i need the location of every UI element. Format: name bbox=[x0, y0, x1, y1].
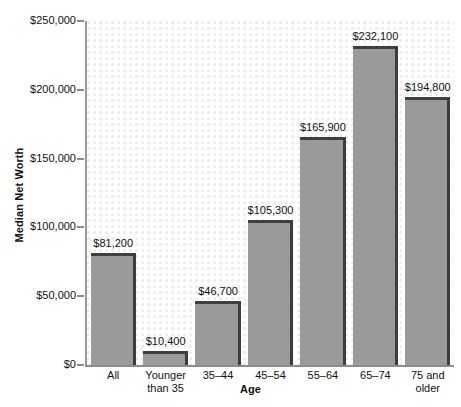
bar-value-label: $10,400 bbox=[146, 336, 186, 347]
bar-value-label: $232,100 bbox=[352, 31, 398, 42]
bar[interactable] bbox=[143, 351, 188, 365]
bar[interactable] bbox=[248, 220, 293, 365]
bar-group: $232,100 bbox=[353, 21, 398, 365]
bar-chart: Median Net Worth $0$50,000$100,000$150,0… bbox=[0, 0, 461, 407]
bar[interactable] bbox=[91, 253, 136, 365]
y-axis-tick-label: $150,000 bbox=[14, 153, 76, 164]
y-axis-tick-mark bbox=[77, 226, 84, 228]
bars-layer: $81,200$10,400$46,700$105,300$165,900$23… bbox=[87, 21, 454, 365]
x-axis-tick-label: 65–74 bbox=[349, 369, 401, 382]
y-axis-tick-label: $50,000 bbox=[14, 290, 76, 301]
bar-value-label: $165,900 bbox=[300, 122, 346, 133]
bar-group: $105,300 bbox=[248, 21, 293, 365]
x-axis-tick-label-line: 65–74 bbox=[349, 369, 401, 382]
x-axis-title-label: Age bbox=[240, 383, 261, 395]
x-axis-tick-label-line: 45–54 bbox=[244, 369, 296, 382]
y-axis-tick-label: $200,000 bbox=[14, 84, 76, 95]
bar-group: $10,400 bbox=[143, 21, 188, 365]
y-axis-tick-mark bbox=[77, 158, 84, 160]
bar-value-label: $46,700 bbox=[198, 286, 238, 297]
bar-value-label: $81,200 bbox=[93, 238, 133, 249]
y-axis-tick-labels: $0$50,000$100,000$150,000$200,000$250,00… bbox=[12, 0, 76, 407]
y-axis-tick-label: $100,000 bbox=[14, 221, 76, 232]
y-axis-tick-mark bbox=[77, 20, 84, 22]
x-axis-tick-label: 35–44 bbox=[192, 369, 244, 382]
x-axis-tick-label-line: 75 and bbox=[402, 369, 454, 382]
y-axis-tick-mark bbox=[77, 295, 84, 297]
x-axis-tick-label: All bbox=[87, 369, 139, 382]
x-axis-tick-label-line: All bbox=[87, 369, 139, 382]
y-axis-tick-mark bbox=[77, 89, 84, 91]
x-axis-tick-label-line: 55–64 bbox=[297, 369, 349, 382]
x-axis-tick-label: 45–54 bbox=[244, 369, 296, 382]
bar-group: $46,700 bbox=[195, 21, 240, 365]
bar-value-label: $194,800 bbox=[405, 82, 451, 93]
x-axis-title: Age bbox=[0, 383, 461, 395]
x-axis-tick-label: 55–64 bbox=[297, 369, 349, 382]
bar-group: $81,200 bbox=[91, 21, 136, 365]
bar[interactable] bbox=[353, 46, 398, 365]
y-axis-tick-label: $0 bbox=[14, 359, 76, 370]
bar[interactable] bbox=[195, 301, 240, 365]
x-axis-line bbox=[85, 365, 454, 367]
bar-value-label: $105,300 bbox=[248, 205, 294, 216]
bar[interactable] bbox=[405, 97, 450, 365]
x-axis-tick-label-line: 35–44 bbox=[192, 369, 244, 382]
bar-group: $165,900 bbox=[300, 21, 345, 365]
bar[interactable] bbox=[300, 137, 345, 365]
y-axis-tick-mark bbox=[77, 364, 84, 366]
x-axis-tick-label-line: Younger bbox=[139, 369, 191, 382]
y-axis-tick-label: $250,000 bbox=[14, 15, 76, 26]
bar-group: $194,800 bbox=[405, 21, 450, 365]
